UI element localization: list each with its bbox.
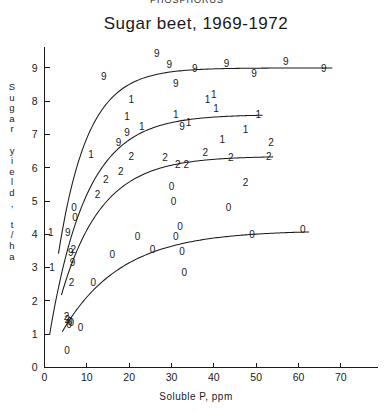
data-point-marker-1970: 0: [249, 229, 255, 240]
data-point-marker-1972: 2: [128, 151, 134, 162]
data-point-marker-1970: 0: [90, 277, 96, 288]
data-point-marker-1971: 1: [205, 94, 211, 105]
data-point-marker-1969: 9: [167, 59, 173, 70]
data-point-marker-1972: 2: [175, 159, 181, 170]
data-point-marker-1970: 0: [173, 231, 179, 242]
fitted-curve-1972: [61, 157, 273, 295]
data-point-marker-1970: 0: [68, 317, 74, 328]
data-point-marker-1972: 2: [162, 152, 168, 163]
data-point-marker-1969: 9: [251, 68, 257, 79]
data-point-marker-1971: 1: [243, 124, 249, 135]
y-tick-label: 1: [32, 328, 38, 340]
fitted-curve-1971: [50, 115, 263, 335]
data-point-marker-1970: 0: [181, 267, 187, 278]
data-points-group: 9999999999999991111111111111122222222222…: [48, 48, 327, 357]
data-point-marker-1972: 2: [103, 174, 109, 185]
data-point-marker-1971: 1: [88, 149, 94, 160]
data-point-marker-1971: 1: [213, 103, 219, 114]
data-point-marker-1969: 9: [321, 63, 327, 74]
y-tick-label: 4: [32, 228, 38, 240]
x-tick-group: 010203040506070: [42, 363, 347, 383]
y-tick-group: 0123456789: [32, 62, 50, 374]
data-point-marker-1970: 0: [179, 246, 185, 257]
data-point-marker-1970: 0: [72, 212, 78, 223]
data-point-marker-1969: 9: [101, 71, 107, 82]
x-tick-label: 10: [81, 371, 93, 383]
data-point-marker-1970: 0: [64, 345, 70, 356]
scatter-plot: 0123456789 010203040506070 9999999999999…: [0, 0, 392, 413]
data-point-marker-1972: 2: [203, 147, 209, 158]
data-point-marker-1972: 2: [118, 166, 124, 177]
data-point-marker-1972: 2: [228, 152, 234, 163]
y-tick-label: 9: [32, 62, 38, 74]
data-point-marker-1969: 9: [224, 58, 230, 69]
x-tick-label: 30: [166, 371, 178, 383]
data-point-marker-1969: 9: [179, 121, 185, 132]
data-point-marker-1969: 9: [65, 227, 71, 238]
data-point-marker-1970: 0: [109, 249, 115, 260]
data-point-marker-1971: 1: [49, 262, 55, 273]
x-tick-label: 20: [123, 371, 135, 383]
data-point-marker-1969: 9: [173, 78, 179, 89]
data-point-marker-1970: 0: [300, 224, 306, 235]
data-point-marker-1972: 2: [243, 177, 249, 188]
data-point-marker-1971: 1: [220, 134, 226, 145]
x-tick-label: 40: [208, 371, 220, 383]
data-point-marker-1969: 9: [192, 63, 198, 74]
data-point-marker-1971: 1: [173, 109, 179, 120]
y-tick-label: 5: [32, 195, 38, 207]
y-tick-label: 3: [32, 261, 38, 273]
data-point-marker-1970: 0: [171, 196, 177, 207]
fitted-curve-1970: [62, 232, 309, 332]
data-point-marker-1970: 0: [169, 181, 175, 192]
y-tick-label: 7: [32, 128, 38, 140]
data-point-marker-1969: 9: [283, 56, 289, 67]
data-point-marker-1971: 1: [124, 111, 130, 122]
x-tick-label: 60: [293, 371, 305, 383]
data-point-marker-1970: 0: [78, 322, 84, 333]
y-tick-label: 8: [32, 95, 38, 107]
x-tick-label: 0: [42, 371, 48, 383]
data-point-marker-1969: 9: [70, 257, 76, 268]
y-tick-label: 2: [32, 295, 38, 307]
y-tick-label: 0: [32, 361, 38, 373]
data-point-marker-1969: 9: [116, 137, 122, 148]
data-point-marker-1972: 2: [95, 189, 101, 200]
data-point-marker-1970: 0: [150, 244, 156, 255]
y-tick-label: 6: [32, 162, 38, 174]
figure-container: PHOSPHORUS Sugar beet, 1969-1972 Sugar y…: [0, 0, 392, 413]
x-tick-label: 70: [335, 371, 347, 383]
data-point-marker-1972: 2: [184, 159, 190, 170]
data-point-marker-1972: 2: [268, 137, 274, 148]
data-point-marker-1970: 0: [226, 202, 232, 213]
data-point-marker-1970: 0: [177, 221, 183, 232]
data-point-marker-1971: 1: [139, 121, 145, 132]
data-point-marker-1970: 0: [135, 231, 141, 242]
fitted-curves-group: [50, 68, 333, 335]
data-point-marker-1972: 2: [266, 151, 272, 162]
data-point-marker-1969: 9: [124, 127, 130, 138]
data-point-marker-1969: 9: [154, 48, 160, 59]
data-point-marker-1971: 1: [128, 94, 134, 105]
data-point-marker-1972: 2: [71, 244, 77, 255]
data-point-marker-1971: 1: [48, 227, 54, 238]
data-point-marker-1971: 1: [186, 117, 192, 128]
data-point-marker-1972: 2: [69, 277, 75, 288]
x-tick-label: 50: [250, 371, 262, 383]
data-point-marker-1971: 1: [211, 89, 217, 100]
data-point-marker-1971: 1: [255, 109, 261, 120]
